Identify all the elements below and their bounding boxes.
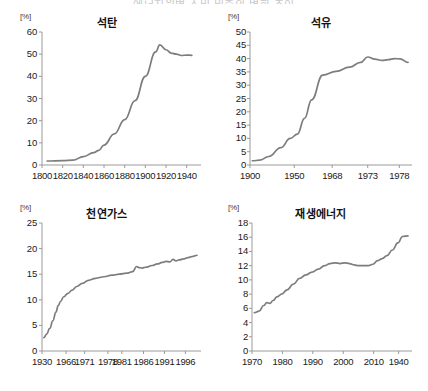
plot-area-renewable	[252, 223, 408, 351]
x-tick-label: 1860	[94, 171, 114, 181]
clipped-header-text: 에너지원별 소비 비중의 변화 추이	[0, 0, 428, 4]
y-tick-label: 20	[7, 244, 37, 254]
y-tick-label: 12	[218, 261, 248, 271]
data-line	[44, 255, 197, 337]
y-tick-label: 50	[7, 49, 37, 59]
data-line	[254, 236, 408, 313]
x-tick-label: 1840	[73, 171, 93, 181]
y-tick-label: 14	[218, 246, 248, 256]
x-tick-label: 1800	[32, 171, 52, 181]
y-tick-label: 50	[216, 27, 246, 37]
x-tick-label: 1978	[389, 171, 409, 181]
x-tick-label: 1980	[272, 357, 292, 367]
y-tick-label: 30	[7, 94, 37, 104]
x-tick-label: 1950	[284, 171, 304, 181]
x-tick-label: 1971	[75, 357, 95, 367]
x-tick-label: 1970	[242, 357, 262, 367]
chart-panel-natural-gas: [%] 천연가스 0510152025 19301966197119781981…	[0, 199, 214, 391]
y-tick-label: 0	[7, 346, 37, 356]
x-tick-label: 1973	[358, 171, 378, 181]
series-line-coal	[42, 32, 197, 165]
chart-panel-renewable: [%] 재생에너지 024681012141618 19701980199020…	[214, 199, 428, 391]
y-tick-label: 40	[216, 54, 246, 64]
plot-area-oil	[250, 32, 408, 165]
chart-title-oil: 석유	[214, 14, 428, 30]
y-tick-label: 15	[216, 120, 246, 130]
x-tick-label: 1900	[135, 171, 155, 181]
x-tick-label: 1880	[115, 171, 135, 181]
y-tick-label: 16	[218, 232, 248, 242]
y-tick-label: 8	[218, 289, 248, 299]
x-tick-label: 1968	[322, 171, 342, 181]
y-tick-label: 5	[216, 147, 246, 157]
plot-area-natural-gas	[42, 223, 197, 351]
x-tick-label: 1986	[134, 357, 154, 367]
y-tick-label: 4	[218, 318, 248, 328]
y-tick-label: 5	[7, 320, 37, 330]
x-tick-label: 1996	[175, 357, 195, 367]
chart-panel-oil: [%] 석유 05101520253035404550 190019501968…	[214, 6, 428, 199]
x-tick-label: 1981	[112, 357, 132, 367]
chart-grid: [%] 석탄 0102030405060 1800182018401860188…	[0, 6, 428, 391]
x-tick-label: 1820	[53, 171, 73, 181]
y-tick-label: 35	[216, 67, 246, 77]
y-tick-label: 10	[216, 133, 246, 143]
data-line	[47, 45, 192, 161]
y-tick-label: 0	[218, 346, 248, 356]
y-tick-label: 25	[216, 94, 246, 104]
data-line	[252, 57, 408, 161]
plot-area-coal	[42, 32, 197, 165]
y-tick-label: 18	[218, 218, 248, 228]
y-tick-label: 60	[7, 27, 37, 37]
x-tick-label: 2010	[364, 357, 384, 367]
x-tick-label: 1940	[389, 357, 409, 367]
series-line-renewable	[252, 223, 408, 351]
y-tick-label: 6	[218, 303, 248, 313]
x-tick-label: 1991	[154, 357, 174, 367]
y-tick-label: 10	[7, 295, 37, 305]
y-tick-label: 25	[7, 218, 37, 228]
x-tick-label: 1900	[240, 171, 260, 181]
y-tick-label: 0	[216, 160, 246, 170]
x-tick-label: 1940	[177, 171, 197, 181]
y-tick-label: 30	[216, 80, 246, 90]
x-tick-label: 1930	[32, 357, 52, 367]
y-tick-label: 45	[216, 40, 246, 50]
y-tick-label: 15	[7, 269, 37, 279]
figure-root: 에너지원별 소비 비중의 변화 추이 [%] 석탄 0102030405060 …	[0, 0, 428, 391]
x-tick-label: 1966	[56, 357, 76, 367]
x-tick-label: 2000	[333, 357, 353, 367]
y-tick-label: 10	[218, 275, 248, 285]
y-tick-label: 20	[216, 107, 246, 117]
series-line-oil	[250, 32, 408, 165]
y-tick-label: 20	[7, 116, 37, 126]
x-tick-label: 1990	[303, 357, 323, 367]
x-tick-label: 1920	[156, 171, 176, 181]
y-tick-label: 10	[7, 138, 37, 148]
y-tick-label: 2	[218, 332, 248, 342]
y-tick-label: 40	[7, 71, 37, 81]
chart-panel-coal: [%] 석탄 0102030405060 1800182018401860188…	[0, 6, 214, 199]
y-tick-label: 0	[7, 160, 37, 170]
series-line-natural-gas	[42, 223, 197, 351]
